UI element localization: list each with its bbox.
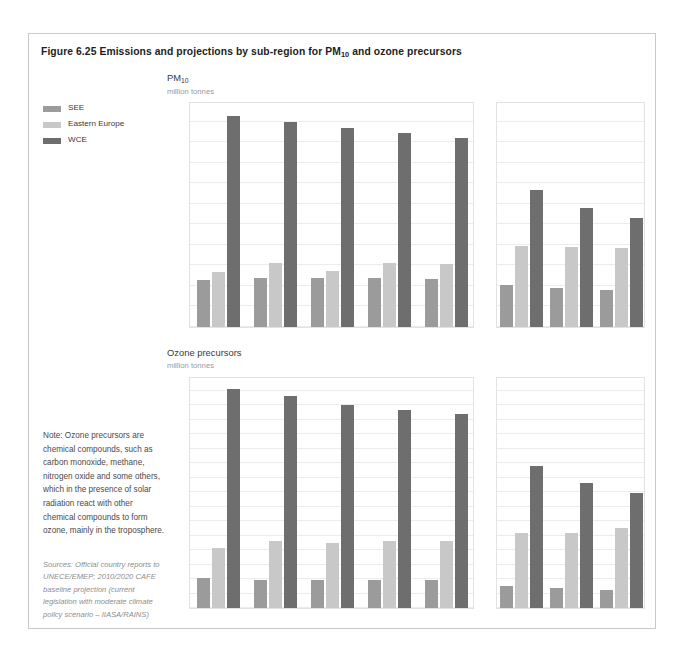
bar-wce-2020 <box>630 218 643 327</box>
bar-group-2020: 2020 <box>596 103 645 327</box>
bar-eastern-europe-2000 <box>212 548 225 608</box>
bar-eastern-europe-2003 <box>383 541 396 608</box>
legend-swatch-icon <box>43 138 61 144</box>
sources-text: Sources: Official country reports to UNE… <box>43 559 165 621</box>
chart-title-text: PM <box>167 72 181 83</box>
chart-ozone-precursors: Ozone precursorsmillion tonnes0246810121… <box>167 347 645 627</box>
bar-wce-2000 <box>227 116 240 327</box>
bar-see-2020 <box>600 590 613 608</box>
chart-title: Ozone precursors <box>167 347 242 359</box>
bar-see-2004 <box>425 580 438 608</box>
bar-see-2010 <box>500 285 513 327</box>
figure-title-prefix: Figure 6.25 Emissions and projections by… <box>41 46 341 57</box>
bar-eastern-europe-2000 <box>212 272 225 327</box>
legend-item-label: Eastern Europe <box>68 120 124 128</box>
bar-wce-2003 <box>398 133 411 327</box>
chart-units-label: million tonnes <box>167 86 214 98</box>
bar-wce-2010 <box>530 466 543 608</box>
bar-group-2002: 2002 <box>304 103 361 327</box>
chart-panel-projection: 201020152020 <box>496 377 645 609</box>
bar-eastern-europe-2001 <box>269 541 282 608</box>
bar-eastern-europe-2002 <box>326 271 339 328</box>
bar-see-2004 <box>425 279 438 327</box>
bar-group-2003: 2003 <box>361 378 418 608</box>
bar-wce-2000 <box>227 389 240 608</box>
chart-title-subscript: 10 <box>181 77 189 84</box>
plot-area: 0246810121416182022200020012002200320042… <box>189 102 645 328</box>
bar-wce-2004 <box>455 414 468 608</box>
legend-item-label: WCE <box>68 136 87 144</box>
bar-eastern-europe-2010 <box>515 246 528 327</box>
chart-panel-historical: 0246810121416182022242628303220002001200… <box>189 377 474 609</box>
bar-see-2000 <box>197 578 210 608</box>
bar-group-2003: 2003 <box>361 103 418 327</box>
chart-header: Ozone precursorsmillion tonnes <box>167 347 242 372</box>
figure-page: Figure 6.25 Emissions and projections by… <box>28 33 656 629</box>
bar-wce-2001 <box>284 396 297 608</box>
bar-eastern-europe-2004 <box>440 541 453 608</box>
bar-eastern-europe-2003 <box>383 263 396 327</box>
bar-see-2001 <box>254 580 267 608</box>
bar-wce-2020 <box>630 493 643 608</box>
bar-eastern-europe-2001 <box>269 263 282 327</box>
legend-swatch-icon <box>43 122 61 128</box>
bar-see-2002 <box>311 278 324 327</box>
bar-group-2010: 2010 <box>497 103 547 327</box>
chart-panel-historical: 024681012141618202220002001200220032004 <box>189 102 474 328</box>
bar-wce-2002 <box>341 405 354 608</box>
page-title: Figure 6.25 Emissions and projections by… <box>41 46 462 57</box>
bar-eastern-europe-2015 <box>565 533 578 608</box>
bar-group-2001: 2001 <box>247 103 304 327</box>
bar-group-2000: 2000 <box>190 378 247 608</box>
bar-eastern-europe-2002 <box>326 543 339 608</box>
bar-see-2015 <box>550 588 563 608</box>
bar-group-2001: 2001 <box>247 378 304 608</box>
bar-group-2002: 2002 <box>304 378 361 608</box>
bar-group-2004: 2004 <box>418 103 474 327</box>
bar-eastern-europe-2020 <box>615 528 628 608</box>
bar-wce-2010 <box>530 190 543 327</box>
legend-item-eastern-europe: Eastern Europe <box>43 118 161 131</box>
chart-header: PM10million tonnes <box>167 72 214 98</box>
bar-eastern-europe-2020 <box>615 248 628 327</box>
bar-wce-2015 <box>580 483 593 608</box>
legend-item-see: SEE <box>43 102 161 115</box>
legend-item-wce: WCE <box>43 134 161 147</box>
chart-panel-projection: 201020152020 <box>496 102 645 328</box>
bar-see-2002 <box>311 580 324 608</box>
bar-eastern-europe-2015 <box>565 247 578 327</box>
bar-see-2015 <box>550 288 563 327</box>
chart-units-label: million tonnes <box>167 360 242 372</box>
bar-wce-2002 <box>341 128 354 327</box>
bar-group-2015: 2015 <box>547 103 597 327</box>
bar-eastern-europe-2010 <box>515 533 528 608</box>
legend-swatch-icon <box>43 106 61 112</box>
bar-see-2003 <box>368 580 381 608</box>
chart-legend: SEEEastern EuropeWCE <box>43 102 161 150</box>
bar-wce-2001 <box>284 122 297 327</box>
bar-group-2004: 2004 <box>418 378 474 608</box>
chart-title: PM10 <box>167 72 214 85</box>
figure-title-subscript: 10 <box>341 50 349 59</box>
bar-group-2000: 2000 <box>190 103 247 327</box>
bar-wce-2015 <box>580 208 593 327</box>
bar-see-2000 <box>197 280 210 327</box>
bar-see-2020 <box>600 290 613 327</box>
bar-group-2020: 2020 <box>596 378 645 608</box>
bar-wce-2003 <box>398 410 411 608</box>
bar-see-2001 <box>254 278 267 327</box>
bar-group-2015: 2015 <box>547 378 597 608</box>
chart-title-text: Ozone precursors <box>167 347 242 358</box>
bar-eastern-europe-2004 <box>440 264 453 327</box>
bar-wce-2004 <box>455 138 468 327</box>
bar-group-2010: 2010 <box>497 378 547 608</box>
legend-item-label: SEE <box>68 104 84 112</box>
figure-title-suffix: and ozone precursors <box>349 46 462 57</box>
bar-see-2010 <box>500 586 513 608</box>
bar-see-2003 <box>368 278 381 327</box>
plot-area: 0246810121416182022242628303220002001200… <box>189 377 645 609</box>
chart-pm10: PM10million tonnes0246810121416182022200… <box>167 72 645 342</box>
note-text: Note: Ozone precursors are chemical comp… <box>43 429 165 538</box>
